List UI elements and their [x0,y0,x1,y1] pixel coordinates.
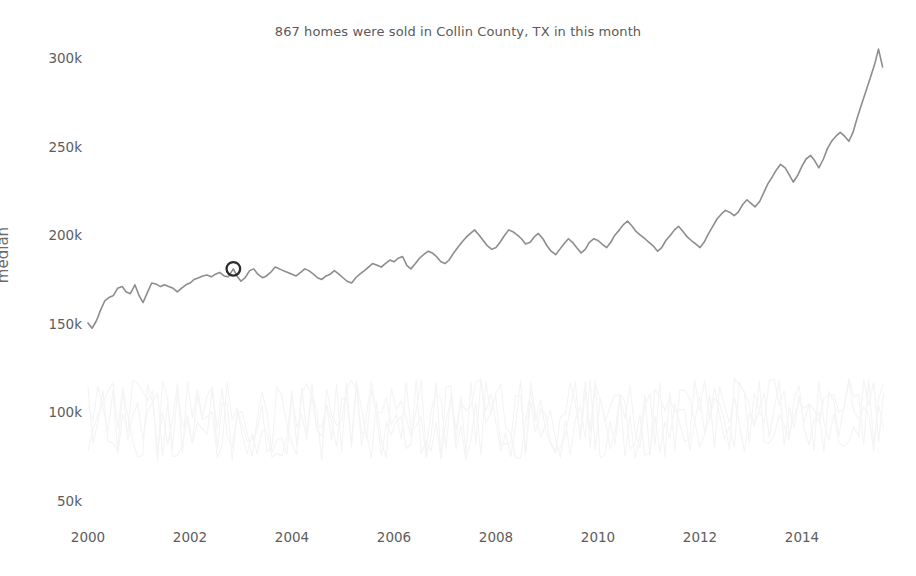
background-ghost-layer [88,379,884,462]
ghost-trace [88,379,884,460]
plot-area [0,0,916,576]
median-line-series [88,49,883,328]
chart-container: 867 homes were sold in Collin County, TX… [0,0,916,576]
